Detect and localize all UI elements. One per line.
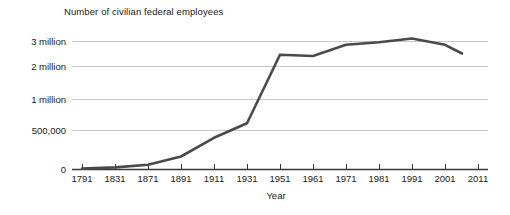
x-tick-label: 1871 [137, 173, 158, 184]
x-tick-label: 1951 [269, 173, 290, 184]
x-tick-label: 1981 [368, 173, 389, 184]
chart-container: Number of civilian federal employees 050… [0, 0, 510, 215]
x-tick-label: 2011 [468, 173, 488, 184]
x-axis-tick-labels: 1791183118711891191119311951196119711981… [0, 0, 510, 215]
x-axis-title: Year [266, 190, 285, 201]
x-tick-label: 1961 [302, 173, 323, 184]
x-tick-label: 1911 [204, 173, 224, 184]
x-tick-label: 2001 [434, 173, 455, 184]
x-tick-label: 1971 [335, 173, 356, 184]
x-tick-label: 1831 [104, 173, 125, 184]
x-tick-label: 1931 [236, 173, 257, 184]
x-tick-label: 1891 [170, 173, 191, 184]
x-tick-label: 1791 [71, 173, 92, 184]
x-tick-label: 1991 [401, 173, 422, 184]
